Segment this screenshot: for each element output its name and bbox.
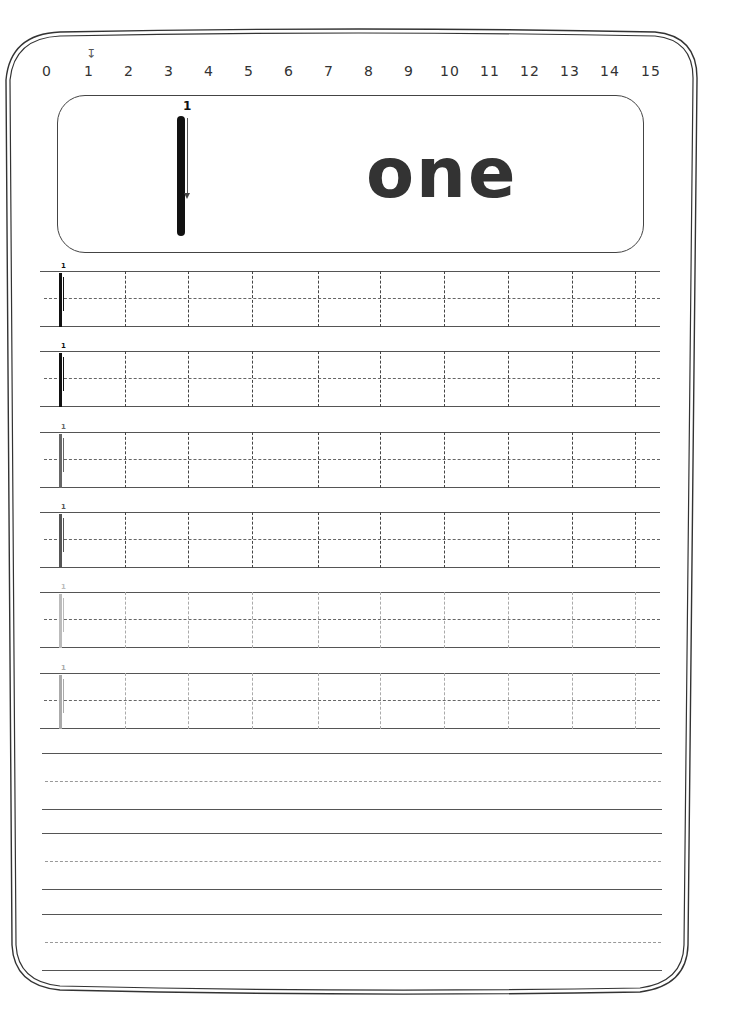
cell-divider (318, 673, 319, 729)
cell-divider (188, 271, 189, 327)
model-digit-stroke (177, 116, 185, 236)
trace-digit-stroke (59, 434, 62, 488)
trace-digit-stroke (59, 675, 62, 729)
stroke-direction-arrow-icon (63, 438, 64, 472)
cell-divider (508, 271, 509, 327)
top-line (40, 673, 660, 674)
stroke-order-number: 1 (183, 99, 191, 113)
top-line (40, 432, 660, 433)
tracing-row[interactable]: 1 (40, 512, 660, 568)
cell-divider (380, 432, 381, 488)
model-letter-box (57, 95, 644, 253)
cell-divider (635, 432, 636, 488)
top-line (40, 592, 660, 593)
cell-divider (125, 271, 126, 327)
midline (44, 619, 660, 620)
cell-divider (508, 351, 509, 407)
writing-line[interactable] (42, 970, 662, 971)
number-line-tick: 8 (364, 63, 374, 79)
writing-midline (45, 781, 661, 782)
cell-divider (188, 673, 189, 729)
midline (44, 539, 660, 540)
cell-divider (252, 432, 253, 488)
stroke-direction-arrow-icon (63, 518, 64, 552)
midline (44, 700, 660, 701)
stroke-order-number: 1 (61, 503, 66, 511)
tracing-row[interactable]: 1 (40, 673, 660, 729)
tracing-row[interactable]: 1 (40, 351, 660, 407)
number-line-tick: 13 (560, 63, 580, 79)
cell-divider (380, 673, 381, 729)
cell-divider (444, 512, 445, 568)
cell-divider (125, 592, 126, 648)
down-arrow-icon: ↧ (86, 47, 96, 61)
writing-line[interactable] (42, 833, 662, 834)
stroke-order-number: 1 (61, 583, 66, 591)
top-line (40, 271, 660, 272)
baseline (40, 567, 660, 568)
cell-divider (380, 592, 381, 648)
cell-divider (508, 673, 509, 729)
cell-divider (635, 512, 636, 568)
stroke-direction-arrow-icon (187, 118, 188, 194)
cell-divider (252, 673, 253, 729)
cell-divider (444, 673, 445, 729)
stroke-direction-arrow-icon (63, 277, 64, 311)
number-line-tick: 10 (440, 63, 460, 79)
number-line-tick: 4 (204, 63, 214, 79)
cell-divider (572, 592, 573, 648)
writing-line[interactable] (42, 809, 662, 810)
cell-divider (508, 512, 509, 568)
cell-divider (188, 512, 189, 568)
cell-divider (635, 271, 636, 327)
cell-divider (572, 673, 573, 729)
writing-midline (45, 861, 661, 862)
number-line-tick: 2 (124, 63, 134, 79)
baseline (40, 647, 660, 648)
cell-divider (188, 351, 189, 407)
top-line (40, 512, 660, 513)
cell-divider (125, 351, 126, 407)
cell-divider (125, 432, 126, 488)
tracing-row[interactable]: 1 (40, 592, 660, 648)
midline (44, 378, 660, 379)
top-line (40, 351, 660, 352)
trace-digit-stroke (59, 594, 62, 648)
number-line-tick: 5 (244, 63, 254, 79)
cell-divider (252, 351, 253, 407)
stroke-direction-arrow-icon (63, 357, 64, 391)
cell-divider (188, 432, 189, 488)
number-line: 0123456789101112131415 (0, 63, 734, 87)
cell-divider (318, 432, 319, 488)
baseline (40, 326, 660, 327)
cell-divider (252, 592, 253, 648)
cell-divider (572, 512, 573, 568)
stroke-order-number: 1 (61, 423, 66, 431)
writing-line[interactable] (42, 914, 662, 915)
baseline (40, 728, 660, 729)
cell-divider (318, 271, 319, 327)
number-line-tick: 1 (84, 63, 94, 79)
number-line-tick: 6 (284, 63, 294, 79)
cell-divider (508, 592, 509, 648)
stroke-order-number: 1 (61, 262, 66, 270)
cell-divider (188, 592, 189, 648)
baseline (40, 406, 660, 407)
cell-divider (635, 351, 636, 407)
cell-divider (318, 512, 319, 568)
cell-divider (125, 673, 126, 729)
tracing-row[interactable]: 1 (40, 271, 660, 327)
cell-divider (635, 673, 636, 729)
writing-line[interactable] (42, 753, 662, 754)
number-line-tick: 3 (164, 63, 174, 79)
number-line-tick: 12 (520, 63, 540, 79)
cell-divider (572, 271, 573, 327)
stroke-direction-arrow-icon (63, 598, 64, 632)
cell-divider (252, 512, 253, 568)
trace-digit-stroke (59, 514, 62, 568)
number-line-tick: 11 (480, 63, 500, 79)
writing-line[interactable] (42, 889, 662, 890)
tracing-row[interactable]: 1 (40, 432, 660, 488)
writing-midline (45, 942, 661, 943)
number-line-tick: 14 (600, 63, 620, 79)
